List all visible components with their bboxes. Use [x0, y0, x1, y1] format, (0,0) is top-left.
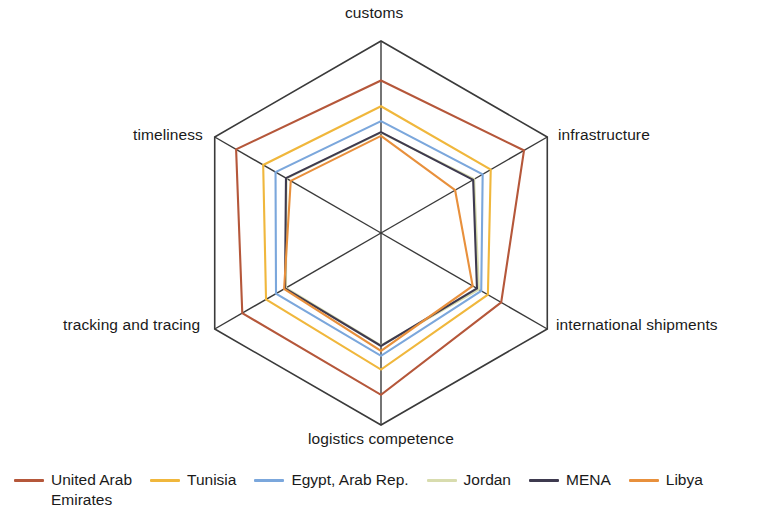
- legend-swatch-icon: [529, 479, 559, 482]
- legend-item[interactable]: Jordan: [427, 470, 511, 490]
- radar-chart: customs infrastructure international shi…: [0, 0, 763, 527]
- legend-label: Tunisia: [187, 470, 236, 490]
- axis-label-tracking-and-tracing: tracking and tracing: [63, 316, 200, 334]
- legend-item[interactable]: United Arab Emirates: [14, 470, 132, 510]
- legend-item[interactable]: Egypt, Arab Rep.: [254, 470, 408, 490]
- axis-label-logistics-competence: logistics competence: [308, 430, 454, 448]
- radar-series-united-arab-emirates: [236, 81, 524, 395]
- legend-label: MENA: [566, 470, 611, 490]
- axis-label-infrastructure: infrastructure: [558, 126, 650, 144]
- legend-item[interactable]: Libya: [629, 470, 703, 490]
- legend-label: Jordan: [464, 470, 511, 490]
- legend-item[interactable]: Tunisia: [150, 470, 236, 490]
- legend-label: Egypt, Arab Rep.: [291, 470, 408, 490]
- legend-label: Libya: [666, 470, 703, 490]
- radar-series-libya: [284, 136, 473, 351]
- axis-label-customs: customs: [345, 4, 403, 22]
- legend-swatch-icon: [427, 479, 457, 482]
- grid-spoke: [381, 233, 547, 329]
- legend-swatch-icon: [254, 479, 284, 482]
- legend-label: United Arab Emirates: [51, 470, 132, 510]
- radar-series-layer: [236, 81, 524, 395]
- axis-label-timeliness: timeliness: [133, 126, 203, 144]
- axis-label-international-shipments: international shipments: [556, 316, 718, 334]
- radar-plot-area: [0, 0, 763, 460]
- legend-item[interactable]: MENA: [529, 470, 611, 490]
- grid-spoke: [381, 137, 547, 233]
- legend-swatch-icon: [150, 479, 180, 482]
- chart-legend: United Arab EmiratesTunisiaEgypt, Arab R…: [0, 470, 763, 527]
- radar-series-tunisia: [263, 106, 491, 369]
- legend-swatch-icon: [629, 479, 659, 482]
- legend-swatch-icon: [14, 479, 44, 482]
